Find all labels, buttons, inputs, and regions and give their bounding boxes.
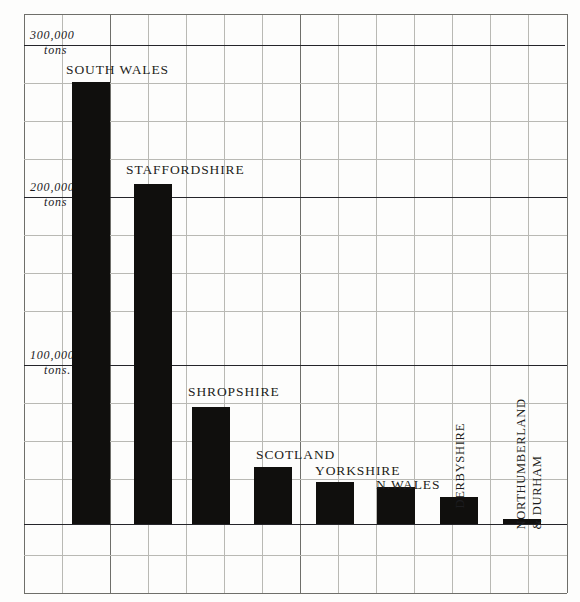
bar-label-shropshire: SHROPSHIRE	[188, 385, 280, 399]
bar-label-yorkshire: YORKSHIRE	[315, 464, 400, 478]
coal-production-bar-chart: 300,000 tons 200,000 tons 100,000 tons. …	[0, 0, 580, 602]
bar-label-durham: & DURHAM	[531, 455, 544, 529]
bar-scotland[interactable]	[254, 467, 292, 524]
bar-label-scotland: SCOTLAND	[256, 448, 335, 462]
bar-n-wales[interactable]	[377, 487, 415, 524]
bar-south-wales[interactable]	[72, 82, 110, 524]
bar-label-south-wales: SOUTH WALES	[66, 63, 169, 77]
bar-staffordshire[interactable]	[134, 184, 172, 524]
bar-label-n-wales: N.WALES	[376, 478, 440, 492]
bar-shropshire[interactable]	[192, 407, 230, 524]
bar-label-staffordshire: STAFFORDSHIRE	[126, 163, 245, 177]
bars-layer	[0, 0, 580, 602]
bar-yorkshire[interactable]	[316, 482, 354, 524]
bar-label-derbyshire: DERBYSHIRE	[454, 423, 467, 508]
bar-label-northumberland: NORTHUMBERLAND	[515, 398, 528, 529]
